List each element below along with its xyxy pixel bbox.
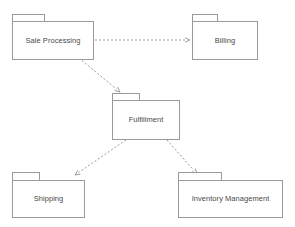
package-body-sale-processing: Sale Processing [12, 21, 94, 60]
package-fulfillment[interactable]: Fulfillment [112, 93, 180, 140]
uml-package-diagram-canvas: Sale Processing Billing Fulfillment Ship… [0, 0, 295, 227]
package-label-sale-processing: Sale Processing [26, 37, 81, 45]
package-billing[interactable]: Billing [192, 14, 258, 60]
package-body-billing: Billing [192, 21, 258, 60]
package-body-fulfillment: Fulfillment [112, 100, 180, 140]
package-body-shipping: Shipping [12, 180, 85, 218]
dependency-arrowhead-sale-processing-to-billing [185, 38, 190, 42]
package-inventory-management[interactable]: Inventory Management [178, 172, 283, 218]
package-body-inventory-management: Inventory Management [178, 180, 283, 218]
package-sale-processing[interactable]: Sale Processing [12, 14, 94, 60]
dependency-arrowhead-sale-processing-to-fulfillment [115, 87, 120, 92]
package-label-billing: Billing [215, 37, 235, 45]
package-label-inventory-management: Inventory Management [192, 195, 270, 203]
package-shipping[interactable]: Shipping [12, 172, 85, 218]
dependency-line-sale-processing-to-fulfillment [79, 58, 117, 89]
package-label-fulfillment: Fulfillment [129, 116, 164, 124]
dependency-line-fulfillment-to-shipping [79, 140, 126, 172]
package-label-shipping: Shipping [34, 195, 64, 203]
dependency-line-fulfillment-to-inventory-management [167, 140, 194, 171]
